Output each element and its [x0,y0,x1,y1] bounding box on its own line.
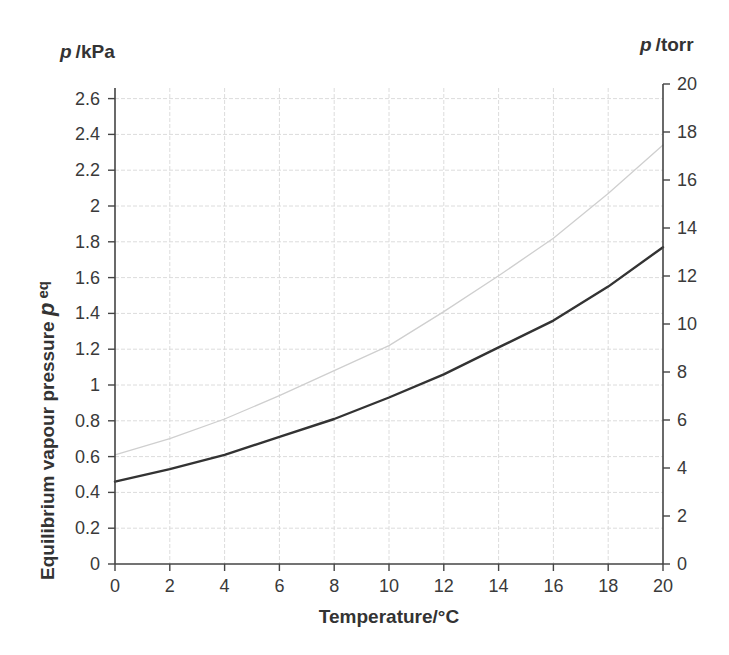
grid-lines [115,88,663,564]
y2-tick-label: 4 [677,458,687,478]
y-tick-label: 1.2 [75,339,100,359]
x-tick-label: 8 [329,576,339,596]
y2-tick-label: 12 [677,266,697,286]
x-axis-ticks: 02468101214161820 [110,564,673,596]
left-axis-unit: p/kPa [59,41,115,62]
x-tick-label: 18 [598,576,618,596]
y-axis-title: Equilibrium vapour pressure peq [34,281,59,580]
x-tick-label: 4 [220,576,230,596]
x-tick-label: 16 [543,576,563,596]
right-y-axis-ticks: 02468101214161820 [663,74,697,574]
right-axis-unit: p/torr [639,34,694,55]
y-tick-label: 0.6 [75,447,100,467]
y2-tick-label: 10 [677,314,697,334]
y2-tick-label: 0 [677,554,687,574]
y-tick-label: 1.6 [75,268,100,288]
x-tick-label: 14 [489,576,509,596]
y-tick-label: 1 [90,375,100,395]
y-tick-label: 1.8 [75,232,100,252]
x-tick-label: 6 [274,576,284,596]
y-tick-label: 2 [90,196,100,216]
x-tick-label: 2 [165,576,175,596]
x-tick-label: 10 [379,576,399,596]
x-tick-label: 12 [434,576,454,596]
y2-tick-label: 8 [677,362,687,382]
y-tick-label: 1.4 [75,303,100,323]
y2-tick-label: 6 [677,410,687,430]
y2-tick-label: 16 [677,170,697,190]
y2-tick-label: 18 [677,122,697,142]
y-tick-label: 0.2 [75,518,100,538]
y-tick-label: 2.4 [75,124,100,144]
y-tick-label: 2.6 [75,89,100,109]
y2-tick-label: 20 [677,74,697,94]
x-axis-title: Temperature/°C [319,606,460,627]
vapour-pressure-chart: 02468101214161820 00.20.40.60.811.21.41.… [0,0,729,655]
y2-tick-label: 14 [677,218,697,238]
x-tick-label: 20 [653,576,673,596]
y-tick-label: 0.4 [75,482,100,502]
y-tick-label: 0.8 [75,411,100,431]
left-y-axis-ticks: 00.20.40.60.811.21.41.61.822.22.42.6 [75,89,115,574]
y-tick-label: 0 [90,554,100,574]
x-tick-label: 0 [110,576,120,596]
y-tick-label: 2.2 [75,160,100,180]
y2-tick-label: 2 [677,506,687,526]
